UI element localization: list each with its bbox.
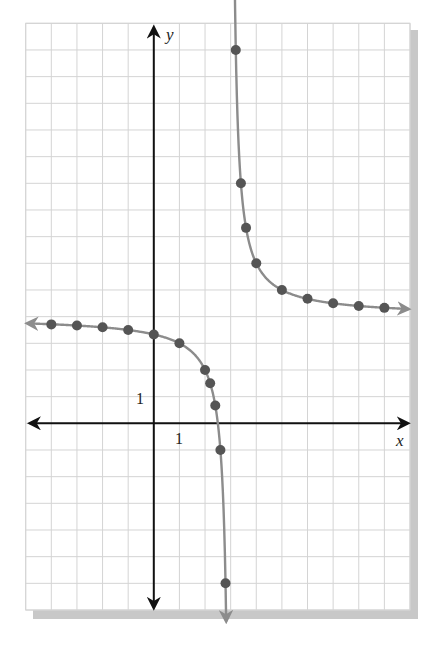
data-point [231,45,241,55]
data-point [205,378,215,388]
data-point [251,258,261,268]
data-point [221,578,231,588]
data-point [98,322,108,332]
data-point [200,365,210,375]
data-point [174,338,184,348]
y-axis-label: y [164,25,174,44]
data-point [379,303,389,313]
data-point [236,178,246,188]
data-point [149,330,159,340]
x-tick-label-1: 1 [175,430,183,447]
data-point [46,319,56,329]
data-point [210,400,220,410]
data-point [354,301,364,311]
data-point [328,298,338,308]
y-tick-label-1: 1 [136,390,144,407]
data-point [241,223,251,233]
data-point [215,445,225,455]
data-point [72,320,82,330]
rational-function-graph: x y 1 1 [0,0,439,657]
x-axis-label: x [395,431,404,450]
data-point [277,285,287,295]
data-point [123,325,133,335]
data-point [303,294,313,304]
